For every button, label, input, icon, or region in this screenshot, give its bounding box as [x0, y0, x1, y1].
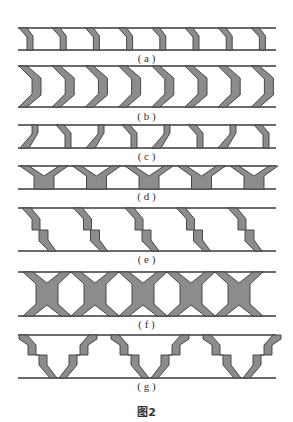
- cell-slanted-bar: [251, 28, 265, 50]
- subfigure-c: [18, 125, 276, 148]
- cell-chevron: [119, 66, 141, 107]
- subfigure-b: [18, 66, 276, 107]
- cell-x-shape: [215, 272, 263, 316]
- caption-c: ( c ): [0, 150, 293, 162]
- cell-x-shape: [23, 272, 71, 316]
- cell-x-shape: [167, 272, 215, 316]
- cell-chevron: [251, 66, 273, 107]
- cell-y-shape: [125, 166, 173, 189]
- caption-a: ( a ): [0, 52, 293, 64]
- cell-slanted-bar-right: [254, 125, 269, 148]
- cell-x-shape: [119, 272, 167, 316]
- cell-slanted-bar: [218, 28, 232, 50]
- cell-slanted-bar-right: [122, 125, 137, 148]
- cell-stepped-arm-right: [151, 335, 189, 378]
- cell-stepped-arm-left: [203, 335, 241, 378]
- cell-y-shape: [230, 166, 278, 189]
- subfigure-g: [18, 335, 281, 378]
- cell-stepped-zigzag: [74, 208, 108, 251]
- cell-y-shape: [178, 166, 226, 189]
- cell-x-shape: [71, 272, 119, 316]
- cell-stepped-zigzag: [228, 208, 262, 251]
- cell-slanted-bar: [19, 28, 33, 50]
- cell-chevron: [19, 66, 41, 107]
- cell-stepped-arm-right: [243, 335, 281, 378]
- cell-slanted-bar: [85, 28, 99, 50]
- cell-slanted-bar-left: [86, 125, 104, 148]
- cell-slanted-bar-left: [20, 125, 38, 148]
- cell-stepped-zigzag: [177, 208, 211, 251]
- cell-slanted-bar-right: [188, 125, 203, 148]
- caption-e: ( e ): [0, 253, 293, 265]
- cell-chevron: [85, 66, 107, 107]
- caption-d: ( d ): [0, 190, 293, 202]
- cell-chevron: [152, 66, 174, 107]
- cell-stepped-arm-left: [111, 335, 149, 378]
- cell-slanted-bar-left: [218, 125, 236, 148]
- subfigure-d: [18, 166, 278, 189]
- cell-slanted-bar: [52, 28, 66, 50]
- subfigure-e: [18, 208, 276, 251]
- cell-slanted-bar: [119, 28, 133, 50]
- cell-stepped-zigzag: [22, 208, 56, 251]
- caption-b: ( b ): [0, 110, 293, 122]
- cell-slanted-bar: [185, 28, 199, 50]
- cell-slanted-bar: [152, 28, 166, 50]
- subfigure-f: [18, 272, 276, 316]
- caption-g: ( g ): [0, 380, 293, 392]
- cell-y-shape: [20, 166, 68, 189]
- cell-chevron: [218, 66, 240, 107]
- cell-y-shape: [73, 166, 121, 189]
- cell-stepped-zigzag: [125, 208, 159, 251]
- cell-slanted-bar-left: [152, 125, 170, 148]
- cell-stepped-arm-left: [19, 335, 57, 378]
- cell-chevron: [52, 66, 74, 107]
- subfigure-a: [18, 28, 276, 50]
- cell-stepped-arm-right: [59, 335, 97, 378]
- cell-slanted-bar-right: [56, 125, 71, 148]
- figure-title: 图2: [0, 403, 293, 419]
- caption-f: ( f ): [0, 318, 293, 330]
- cell-chevron: [185, 66, 207, 107]
